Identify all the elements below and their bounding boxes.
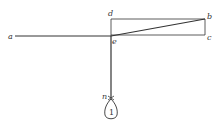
weight-label: 1 bbox=[109, 108, 114, 117]
label-n: n bbox=[102, 92, 107, 101]
label-d: d bbox=[108, 9, 113, 18]
label-e: e bbox=[112, 37, 117, 46]
force-diagram: 1 a d b c e n bbox=[0, 0, 220, 135]
label-a: a bbox=[8, 32, 13, 41]
label-b: b bbox=[207, 12, 212, 21]
label-c: c bbox=[207, 33, 212, 42]
line-e-b bbox=[111, 19, 205, 36]
